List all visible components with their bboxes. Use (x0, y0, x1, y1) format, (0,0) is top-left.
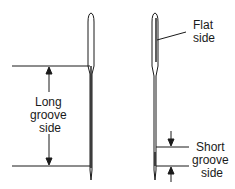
long-groove-label: Long groove side (30, 95, 70, 135)
flat-side-pointer (157, 32, 186, 40)
short-groove-dimension (156, 131, 189, 182)
needle-diagram: Long groove side Flat side Short groove … (0, 0, 235, 189)
flat-side-label: Flat side (193, 18, 216, 45)
short-groove-label: Short groove side (192, 140, 232, 180)
left-needle (88, 13, 94, 180)
right-needle (152, 13, 158, 180)
